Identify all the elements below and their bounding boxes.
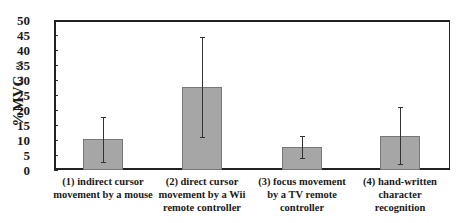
y-tick-label: 30 [0,74,30,87]
y-tick-label: 50 [0,14,30,27]
y-tick-label: 25 [0,89,30,102]
y-tick-label: 5 [0,149,30,162]
error-bar-cap [300,158,305,159]
error-bar-cap [300,136,305,137]
y-tick-label: 35 [0,59,30,72]
y-tick-label: 40 [0,44,30,57]
error-bar-cap [398,164,403,165]
y-tick-mark [54,170,58,171]
y-tick-label: 10 [0,134,30,147]
error-bar-cap [200,137,205,138]
x-category-label: (2) direct cursormovement by a Wiiremote… [152,175,252,214]
error-bar [400,107,401,164]
error-bar [202,37,203,137]
error-bar [302,136,303,158]
y-tick-label: 15 [0,119,30,132]
error-bar-cap [101,117,106,118]
error-bar-cap [101,162,106,163]
y-tick-label: 45 [0,29,30,42]
error-bar [103,117,104,162]
x-category-label: (1) indirect cursormovement by a mouse [53,175,153,201]
y-tick-label: 0 [0,164,30,177]
error-bar-cap [398,107,403,108]
error-bar-cap [200,37,205,38]
x-category-label: (3) focus movementby a TV remotecontroll… [252,175,352,214]
y-tick-label: 20 [0,104,30,117]
x-category-label: (4) hand-writtencharacterrecognition [350,175,450,214]
